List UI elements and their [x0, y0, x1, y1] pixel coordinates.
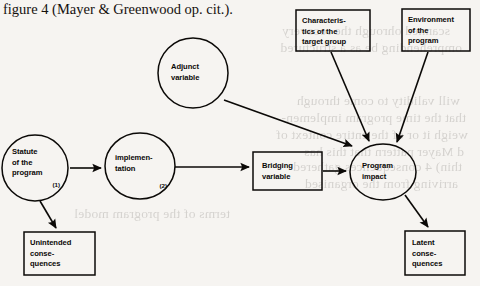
edge-adjunct-variable-to-program-impact: [224, 100, 352, 146]
label-latent-consequences: Latent conse- quences: [412, 238, 464, 270]
label-characteristics-of-the-target-group: Characteris- tics of the target group: [302, 16, 368, 48]
label-environment-of-the-program: Environment of the program: [408, 15, 470, 47]
label-implementation: implemen- tation (2): [115, 153, 167, 192]
figure-page: scanned ohrough the recoveryomprehending…: [0, 0, 480, 286]
label-adjunct-variable: Adjunct variable: [171, 62, 217, 83]
edge-statute-to-unintended-consequences: [40, 201, 56, 228]
edge-program-impact-to-latent-consequences: [405, 195, 428, 227]
edge-characteristics-to-program-impact: [331, 52, 369, 141]
edge-environment-to-program-impact: [397, 52, 428, 142]
label-bridging-variable: Bridging variable: [262, 161, 318, 182]
label-statute-of-the-program: Statute of the program (1): [12, 147, 60, 190]
label-program-impact: Program impact: [362, 161, 406, 182]
label-unintended-consequences: Unintended conse- quences: [30, 238, 92, 270]
